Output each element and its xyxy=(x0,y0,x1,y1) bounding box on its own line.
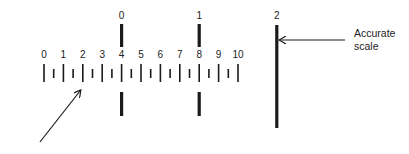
lower-scale-tick-label: 5 xyxy=(138,49,144,60)
accurate-scale-label-line1: Accurate xyxy=(354,27,396,39)
lower-scale-tick-label: 1 xyxy=(61,49,67,60)
scale-diagram: 012345678910 012 Accurate scale xyxy=(0,0,409,154)
upper-scale-tick-label: 1 xyxy=(196,10,202,21)
lower-scale-tick-label: 6 xyxy=(158,49,164,60)
lower-scale: 012345678910 xyxy=(41,49,244,82)
upper-scale-tick-label: 2 xyxy=(274,10,280,21)
lower-scale-tick-label: 8 xyxy=(196,49,202,60)
lower-scale-tick-label: 4 xyxy=(119,49,125,60)
upper-scale-tick-label: 0 xyxy=(119,10,125,21)
pointer-arrow xyxy=(40,90,81,142)
accurate-scale-label-line2: scale xyxy=(354,40,379,52)
lower-scale-tick-label: 7 xyxy=(177,49,183,60)
lower-scale-tick-label: 0 xyxy=(41,49,47,60)
lower-scale-tick-label: 2 xyxy=(80,49,86,60)
lower-scale-tick-label: 9 xyxy=(216,49,222,60)
lower-scale-tick-label: 10 xyxy=(232,49,244,60)
lower-scale-tick-label: 3 xyxy=(99,49,105,60)
